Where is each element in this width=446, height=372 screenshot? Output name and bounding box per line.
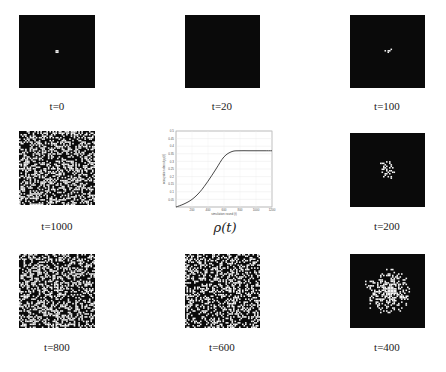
cluster-pattern	[19, 131, 95, 205]
panel-t400	[350, 254, 425, 328]
cluster-pattern	[185, 254, 260, 328]
svg-text:0.5: 0.5	[170, 129, 175, 133]
label-t20: t=20	[162, 100, 282, 112]
rho-label: ρ(t)	[200, 220, 250, 235]
svg-text:1000: 1000	[253, 208, 260, 212]
svg-text:400: 400	[205, 208, 210, 212]
cluster-pattern	[185, 15, 260, 88]
panel-t1000	[19, 131, 95, 205]
panel-t100	[350, 15, 425, 88]
svg-text:200: 200	[189, 208, 194, 212]
panel-t0	[19, 15, 95, 88]
y-axis-label: occupation density ρ(t)	[162, 154, 166, 184]
panel-t200	[350, 133, 425, 207]
svg-text:0.1: 0.1	[170, 190, 175, 194]
svg-text:0.25: 0.25	[168, 167, 174, 171]
svg-text:0.45: 0.45	[168, 137, 174, 141]
svg-text:800: 800	[237, 208, 242, 212]
label-t800: t=800	[0, 341, 117, 353]
label-t600: t=600	[162, 341, 282, 353]
label-t100: t=100	[327, 100, 446, 112]
label-t400: t=400	[327, 341, 446, 353]
svg-text:0.4: 0.4	[170, 144, 175, 148]
svg-text:0.35: 0.35	[168, 152, 174, 156]
label-t200: t=200	[327, 220, 446, 232]
x-axis-label: simulation round (t)	[211, 212, 237, 216]
svg-text:0.05: 0.05	[168, 198, 174, 202]
svg-text:0.2: 0.2	[170, 175, 175, 179]
cluster-pattern	[19, 254, 95, 328]
svg-text:0.15: 0.15	[168, 182, 174, 186]
density-chart: 0.050.10.150.20.250.30.350.40.450.520040…	[160, 128, 280, 218]
panel-t600	[185, 254, 260, 328]
panel-t20	[185, 15, 260, 88]
cluster-pattern	[350, 15, 425, 88]
panel-t800	[19, 254, 95, 328]
cluster-pattern	[350, 254, 425, 328]
cluster-pattern	[19, 15, 95, 88]
label-t0: t=0	[0, 100, 117, 112]
label-t1000: t=1000	[0, 220, 117, 232]
svg-text:0.3: 0.3	[170, 160, 175, 164]
svg-text:1200: 1200	[269, 208, 276, 212]
cluster-pattern	[350, 133, 425, 207]
